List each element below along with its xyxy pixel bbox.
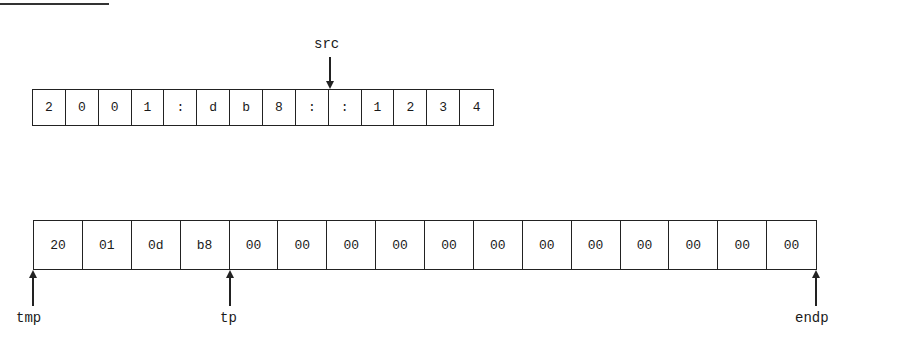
src-pointer-label: src (314, 36, 339, 52)
dest-cell: 00 (523, 221, 572, 269)
source-cell: 4 (460, 90, 493, 125)
dest-cell: 20 (34, 221, 83, 269)
dest-cell: 00 (669, 221, 718, 269)
dest-cell: b8 (181, 221, 230, 269)
source-cell: 3 (427, 90, 460, 125)
source-cell: : (329, 90, 362, 125)
endp-pointer-label: endp (795, 310, 829, 326)
source-cell: b (230, 90, 263, 125)
source-cell: d (197, 90, 230, 125)
dest-cell: 00 (425, 221, 474, 269)
dest-cell: 01 (83, 221, 132, 269)
source-cell: 2 (394, 90, 427, 125)
tmp-pointer-label: tmp (16, 310, 41, 326)
dest-cell: 00 (230, 221, 279, 269)
source-cell: 0 (66, 90, 99, 125)
dest-cell: 00 (376, 221, 425, 269)
source-cell: : (164, 90, 197, 125)
source-cell: 0 (99, 90, 132, 125)
tp-pointer-label: tp (220, 310, 237, 326)
top-rule-line (0, 3, 109, 5)
dest-cell: 00 (278, 221, 327, 269)
dest-cell: 00 (572, 221, 621, 269)
dest-byte-array: 20 01 0d b8 00 00 00 00 00 00 00 00 00 0… (33, 220, 817, 270)
source-cell: 8 (263, 90, 296, 125)
source-cell: 1 (132, 90, 165, 125)
source-cell: 1 (362, 90, 395, 125)
dest-cell: 00 (767, 221, 816, 269)
dest-cell: 00 (621, 221, 670, 269)
dest-cell: 00 (718, 221, 767, 269)
source-cell: : (296, 90, 329, 125)
source-cell: 2 (33, 90, 66, 125)
dest-cell: 0d (132, 221, 181, 269)
dest-cell: 00 (327, 221, 376, 269)
dest-cell: 00 (474, 221, 523, 269)
source-char-array: 2 0 0 1 : d b 8 : : 1 2 3 4 (32, 89, 494, 126)
